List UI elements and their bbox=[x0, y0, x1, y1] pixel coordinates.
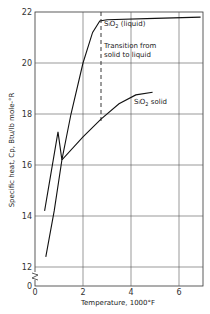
x-tick-labels: 0 2 4 6 bbox=[32, 288, 181, 297]
transition-annotation-line2: solid to liquid bbox=[104, 51, 151, 59]
transition-annotation-line1: Transition from bbox=[103, 42, 157, 50]
y-tick: 22 bbox=[22, 8, 32, 17]
x-axis-title: Temperature, 1000°F bbox=[80, 299, 155, 307]
y-axis-title: Specific heat, Cp, Btu/lb mole-°R bbox=[8, 93, 16, 208]
y-tick: 12 bbox=[22, 263, 32, 272]
solid-annotation: SiO2 solid bbox=[134, 98, 167, 107]
y-tick-labels: 22 20 18 16 14 12 0 bbox=[22, 8, 32, 291]
solid-series-line bbox=[46, 92, 153, 256]
x-tick: 6 bbox=[176, 288, 181, 297]
y-tick: 18 bbox=[22, 110, 32, 119]
liquid-annotation: SiO2 (liquid) bbox=[104, 20, 146, 29]
x-tick: 2 bbox=[80, 288, 85, 297]
specific-heat-chart: 22 20 18 16 14 12 0 0 2 4 6 Temperature,… bbox=[0, 0, 210, 314]
x-tick: 4 bbox=[128, 288, 133, 297]
y-tick: 16 bbox=[22, 161, 32, 170]
y-tick: 14 bbox=[22, 212, 32, 221]
y-origin-label: 0 bbox=[27, 282, 32, 291]
x-tick: 0 bbox=[32, 288, 37, 297]
y-tick: 20 bbox=[22, 59, 32, 68]
